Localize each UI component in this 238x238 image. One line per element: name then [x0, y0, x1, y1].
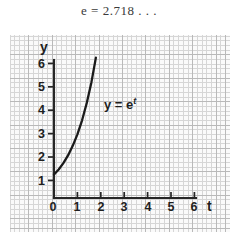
y-axis-label: y — [40, 40, 48, 54]
y-tick-label-5: 5 — [31, 81, 45, 94]
y-tick-label-3: 3 — [31, 128, 45, 141]
x-axis-label: t — [207, 199, 212, 213]
curve-annotation-exponent: t — [133, 96, 136, 106]
y-tick-label-2: 2 — [31, 151, 45, 164]
curve-annotation: y = et — [104, 97, 136, 112]
y-tick-label-4: 4 — [31, 104, 45, 117]
origin-tick-label: 0 — [45, 201, 61, 214]
x-tick-label-1: 1 — [69, 201, 85, 214]
y-tick-label-1: 1 — [31, 175, 45, 188]
x-tick-label-4: 4 — [140, 201, 156, 214]
exponential-curve — [54, 58, 96, 175]
x-tick-label-2: 2 — [93, 201, 109, 214]
y-tick-label-6: 6 — [31, 58, 45, 71]
x-tick-label-6: 6 — [186, 201, 202, 214]
x-tick-label-5: 5 — [163, 201, 179, 214]
x-tick-label-3: 3 — [116, 201, 132, 214]
figure-page: e = 2.718 . . . y t 0 1 2 3 4 5 6 1 2 — [0, 0, 238, 238]
curve-annotation-base: y = e — [104, 97, 133, 112]
